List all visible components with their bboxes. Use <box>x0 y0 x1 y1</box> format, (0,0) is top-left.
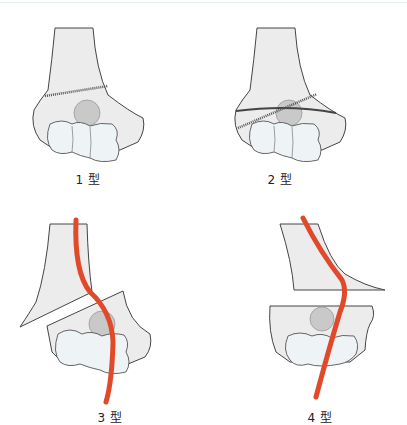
trochlea <box>47 121 119 162</box>
panel-label: 4 型 <box>290 408 350 425</box>
proximal-fragment <box>280 224 385 290</box>
panel-type-2: 2 型 <box>200 0 407 212</box>
bone-illustration-type-4 <box>200 212 407 425</box>
panel-type-1: 1 型 <box>0 0 200 212</box>
panel-label: 1 型 <box>58 170 118 187</box>
panel-type-4: 4 型 <box>200 212 407 425</box>
bone-illustration-type-3 <box>0 212 200 425</box>
panel-type-3: 3 型 <box>0 212 200 425</box>
panel-label: 3 型 <box>80 408 140 425</box>
panel-label: 2 型 <box>250 170 310 187</box>
